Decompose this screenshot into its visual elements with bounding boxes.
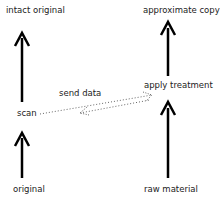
arrow-scan-to-intact-original — [15, 33, 29, 102]
arrow-raw-material-to-apply-treatment — [161, 102, 175, 178]
node-scan: scan — [17, 108, 37, 118]
node-raw-material: raw material — [144, 184, 198, 194]
node-approximate-copy: approximate copy — [143, 5, 220, 15]
node-original: original — [13, 184, 45, 194]
arrow-original-to-scan — [15, 133, 29, 178]
arrow-apply-treatment-to-approximate-copy — [161, 22, 175, 76]
diagram-canvas — [0, 0, 222, 202]
edge-label-send-data: send data — [59, 88, 101, 98]
node-apply-treatment: apply treatment — [144, 80, 213, 90]
node-intact-original: intact original — [6, 5, 65, 15]
